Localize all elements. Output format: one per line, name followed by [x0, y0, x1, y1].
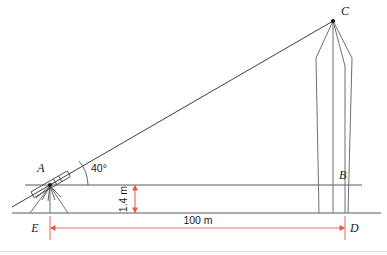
obelisk-cap-left-edge — [316, 21, 333, 58]
dimension-label-distance: 100 m — [183, 214, 212, 226]
angle-of-elevation-diagram: A B C D E 40° 1.4 m 100 m — [0, 0, 387, 255]
point-label-A: A — [36, 161, 45, 175]
obelisk-shaft-right-edge — [348, 58, 352, 213]
point-label-D: D — [349, 221, 359, 235]
obelisk-cap-fold-edge — [333, 21, 345, 66]
node-dot-C — [331, 19, 335, 23]
node-dot-A — [48, 183, 52, 187]
angle-arc-40deg — [79, 161, 88, 185]
point-label-B: B — [339, 168, 347, 182]
angle-label-40: 40° — [91, 162, 107, 174]
obelisk-shaft-left-edge — [316, 58, 319, 213]
dimension-label-height: 1.4 m — [117, 186, 129, 213]
tripod-leg-right — [50, 186, 68, 213]
point-label-C: C — [341, 4, 350, 18]
point-label-E: E — [30, 221, 39, 235]
obelisk-cap-right-edge — [333, 21, 352, 58]
diagram-canvas: A B C D E 40° 1.4 m 100 m — [0, 0, 387, 255]
